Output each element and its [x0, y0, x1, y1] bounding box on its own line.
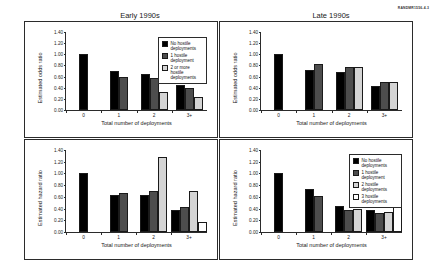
x-axis-tick-label: 3+ — [172, 113, 207, 118]
bar[interactable] — [149, 191, 158, 232]
bar[interactable] — [176, 85, 185, 110]
x-axis-label: Total number of deployments — [261, 120, 402, 126]
bar-group: 1 — [101, 32, 136, 110]
legend-item[interactable]: 3 hostile deployments — [353, 194, 397, 204]
x-axis-tick-label: 0 — [261, 113, 296, 118]
plot-area: 0.000.200.400.600.801.001.201.400123+Tot… — [65, 32, 207, 111]
x-axis-tick-label: 1 — [101, 235, 136, 240]
bar[interactable] — [79, 173, 88, 232]
legend-item[interactable]: No hostile deployments — [162, 41, 202, 51]
column-title-late-1990s: Late 1990s — [236, 11, 426, 20]
x-axis-tick-label: 3+ — [367, 113, 402, 118]
bar-set — [140, 150, 167, 232]
bar[interactable] — [119, 193, 128, 232]
legend-swatch — [353, 170, 359, 176]
x-axis-tick-label: 1 — [296, 235, 331, 240]
bar[interactable] — [354, 67, 363, 110]
x-axis-label: Total number of deployments — [66, 242, 207, 248]
legend-label: 3 hostile deployments — [362, 194, 398, 204]
bar[interactable] — [305, 189, 314, 232]
bar[interactable] — [274, 173, 283, 232]
bar[interactable] — [305, 70, 314, 110]
bar[interactable] — [344, 210, 353, 232]
bar-set — [110, 32, 128, 110]
panel-top-right: Estimated odds ratio 0.000.200.400.600.8… — [219, 21, 413, 138]
bar[interactable] — [380, 82, 389, 110]
bar-group: 3+ — [367, 32, 402, 110]
bar-set — [274, 32, 283, 110]
bar[interactable] — [198, 222, 207, 232]
bar-set — [336, 32, 363, 110]
x-axis-tick-label: 0 — [66, 113, 101, 118]
bar[interactable] — [375, 213, 384, 232]
legend-item[interactable]: 2 hostile deployments — [353, 182, 397, 192]
column-title-early-1990s: Early 1990s — [52, 11, 228, 20]
bar[interactable] — [335, 206, 344, 232]
legend-item[interactable]: 1 hostile deployment — [162, 53, 202, 63]
chart-legend: No hostile deployments1 hostile deployme… — [349, 154, 402, 208]
bar-set — [110, 150, 128, 232]
bar-set — [371, 32, 398, 110]
panel-bottom-left: Estimated hazard ratio 0.000.200.400.600… — [24, 139, 218, 260]
legend-label: No hostile deployments — [362, 158, 398, 168]
panel-bottom-right: Estimated hazard ratio 0.000.200.400.600… — [219, 139, 413, 260]
plot-area: 0.000.200.400.600.801.001.201.400123+Tot… — [65, 150, 207, 233]
bar[interactable] — [119, 77, 128, 110]
bar[interactable] — [389, 82, 398, 110]
bar-group: 0 — [66, 32, 101, 110]
x-axis-tick-label: 1 — [101, 113, 136, 118]
x-axis-label: Total number of deployments — [261, 242, 402, 248]
bar[interactable] — [110, 195, 119, 232]
bar[interactable] — [194, 97, 203, 110]
x-axis-tick-label: 2 — [136, 235, 171, 240]
bar[interactable] — [159, 92, 168, 110]
bar-group: 0 — [66, 150, 101, 232]
legend-swatch — [162, 53, 168, 59]
bar[interactable] — [314, 64, 323, 110]
bar[interactable] — [384, 212, 393, 232]
bar[interactable] — [158, 157, 167, 232]
bar-group: 2 — [136, 150, 171, 232]
rand-source-tag: RANDMR1556-4.3 — [398, 6, 429, 10]
legend-swatch — [353, 194, 359, 200]
legend-item[interactable]: No hostile deployments — [353, 158, 397, 168]
bar[interactable] — [171, 210, 180, 232]
bar[interactable] — [189, 191, 198, 232]
bar-groups: 0123+ — [66, 150, 207, 232]
bar[interactable] — [79, 54, 88, 110]
bar-group: 3+ — [171, 150, 207, 232]
x-axis-tick-label: 2 — [331, 235, 366, 240]
bar-set — [305, 32, 323, 110]
bar[interactable] — [141, 74, 150, 110]
legend-label: 2 or more hostile deployments — [171, 65, 203, 81]
legend-item[interactable]: 2 or more hostile deployments — [162, 65, 202, 81]
bar[interactable] — [140, 195, 149, 232]
bar[interactable] — [314, 196, 323, 232]
bar[interactable] — [110, 71, 119, 110]
bar-set — [79, 32, 88, 110]
legend-item[interactable]: 1 hostile deployment — [353, 170, 397, 180]
chart-legend: No hostile deployments1 hostile deployme… — [158, 37, 207, 84]
legend-label: 1 hostile deployment — [362, 170, 398, 180]
plot-area: 0.000.200.400.600.801.001.201.400123+Tot… — [260, 32, 402, 111]
bar-groups: 0123+ — [261, 32, 402, 110]
bar[interactable] — [366, 210, 375, 232]
x-axis-tick-label: 3+ — [366, 235, 402, 240]
bar[interactable] — [353, 209, 362, 232]
bar-group: 0 — [261, 32, 296, 110]
bar-group: 1 — [296, 150, 331, 232]
bar[interactable] — [371, 86, 380, 111]
bar[interactable] — [274, 54, 283, 110]
bar[interactable] — [180, 207, 189, 232]
x-axis-tick-label: 1 — [296, 113, 331, 118]
bar-group: 2 — [332, 32, 367, 110]
bar[interactable] — [185, 88, 194, 110]
x-axis-tick-label: 2 — [137, 113, 172, 118]
bar-set — [79, 150, 88, 232]
panel-top-left: Estimated odds ratio 0.000.200.400.600.8… — [24, 21, 218, 138]
bar[interactable] — [345, 67, 354, 110]
x-axis-label: Total number of deployments — [66, 120, 207, 126]
legend-swatch — [353, 158, 359, 164]
bar-group: 1 — [296, 32, 331, 110]
bar[interactable] — [336, 72, 345, 110]
